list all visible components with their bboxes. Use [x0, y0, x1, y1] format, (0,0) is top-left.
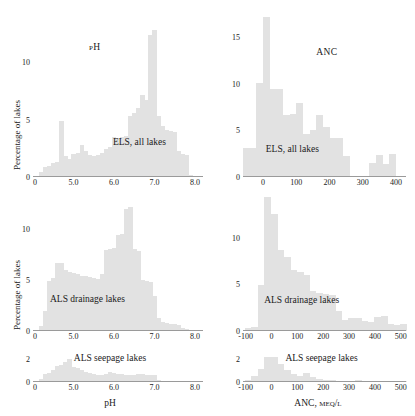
panel-dataset-label: ELS, all lakes	[266, 144, 319, 154]
x-tick-label: 6.0	[109, 178, 119, 187]
x-tick-label: 0	[33, 332, 37, 341]
y-tick-label: 0	[236, 378, 243, 387]
y-tick-label: 5	[236, 280, 243, 289]
y-tick-label: 5	[26, 115, 33, 124]
x-tick-label: 300	[343, 332, 355, 341]
panel-ph-els-all-lakes: 05.06.07.08.00510pHELS, all lakes	[33, 22, 203, 177]
y-tick-label: 0	[236, 327, 243, 336]
x-tick-label: 7.0	[149, 383, 159, 392]
x-tick-label: 5.0	[68, 383, 78, 392]
x-tick-label: 200	[317, 383, 329, 392]
x-tick-label: 200	[317, 332, 329, 341]
y-tick-label: 10	[22, 58, 33, 67]
y-tick-label: 15	[232, 33, 243, 42]
panel-dataset-label: ALS seepage lakes	[285, 353, 357, 363]
y-tick-label: 2	[236, 354, 243, 363]
x-tick-label: 0	[269, 332, 273, 341]
x-tick-label: 400	[369, 383, 381, 392]
x-tick-label: 100	[290, 178, 302, 187]
x-tick-label: 300	[343, 383, 355, 392]
y-axis-ticks: 0510	[33, 203, 34, 331]
x-axis-ticks: 05.06.07.08.0	[33, 331, 203, 345]
histogram-bar	[389, 154, 396, 177]
y-tick-label: 10	[232, 79, 243, 88]
x-axis-ticks: 05.06.07.08.0	[33, 382, 203, 396]
y-axis-ticks: 02	[33, 352, 34, 382]
x-tick-label: 500	[395, 332, 407, 341]
y-axis-label-middle-left: Percentage of lakes	[12, 260, 22, 330]
panel-ph-als-seepage-lakes: 05.06.07.08.002ALS seepage lakes	[33, 352, 203, 382]
panel-dataset-label: ELS, all lakes	[113, 137, 166, 147]
x-tick-label: 8.0	[190, 332, 200, 341]
x-axis-ticks: 0100200300400	[243, 177, 406, 191]
panel-dataset-label: ALS drainage lakes	[264, 295, 339, 305]
x-tick-label: 0	[269, 383, 273, 392]
x-tick-label: 100	[291, 383, 303, 392]
panel-dataset-label: ALS seepage lakes	[74, 353, 146, 363]
y-axis-ticks: 02	[243, 352, 244, 382]
panel-dataset-label: ALS drainage lakes	[50, 294, 125, 304]
panel-title: pH	[89, 42, 100, 52]
x-tick-label: 0	[33, 178, 37, 187]
y-tick-label: 0	[26, 378, 33, 387]
panel-anc-als-drainage-lakes: -10001002003004005000510ALS drainage lak…	[243, 196, 406, 331]
y-axis-ticks: 0510	[243, 196, 244, 331]
y-tick-label: 0	[26, 173, 33, 182]
x-tick-label: 5.0	[68, 178, 78, 187]
figure-histograms-lake-chemistry: Percentage of lakes Percentage of lakes …	[0, 0, 415, 416]
x-tick-label: 200	[323, 178, 335, 187]
x-tick-label: 6.0	[109, 332, 119, 341]
x-tick-label: 8.0	[190, 178, 200, 187]
y-axis-ticks: 051015	[243, 14, 244, 177]
x-tick-label: 5.0	[68, 332, 78, 341]
x-tick-label: 6.0	[109, 383, 119, 392]
x-tick-label: 100	[291, 332, 303, 341]
y-axis-ticks: 0510	[33, 22, 34, 177]
histogram-bar	[343, 156, 350, 177]
bar-series	[33, 22, 203, 177]
panel-title: ANC	[316, 47, 337, 57]
panel-anc-als-seepage-lakes: -100010020030040050002ALS seepage lakes	[243, 352, 406, 382]
x-axis-ticks: 05.06.07.08.0	[33, 177, 203, 191]
y-tick-label: 10	[22, 224, 33, 233]
x-axis-ticks: -1000100200300400500	[243, 382, 406, 396]
y-tick-label: 5	[26, 275, 33, 284]
x-axis-ticks: -1000100200300400500	[243, 331, 406, 345]
histogram-bar	[185, 155, 189, 177]
panel-ph-als-drainage-lakes: 05.06.07.08.00510ALS drainage lakes	[33, 203, 203, 331]
y-tick-label: 0	[26, 327, 33, 336]
bar-series	[243, 196, 406, 331]
x-tick-label: 300	[357, 178, 369, 187]
x-tick-label: 400	[390, 178, 402, 187]
panel-anc-els-all-lakes: 0100200300400051015ANCELS, all lakes	[243, 14, 406, 177]
y-tick-label: 2	[26, 354, 33, 363]
x-tick-label: 500	[395, 383, 407, 392]
y-tick-label: 10	[232, 233, 243, 242]
x-axis-label-ph: pH	[104, 398, 116, 408]
x-axis-label-anc: ANC, μeq/l	[294, 398, 341, 408]
x-tick-label: 7.0	[149, 178, 159, 187]
x-tick-label: 400	[369, 332, 381, 341]
y-tick-label: 5	[236, 126, 243, 135]
y-tick-label: 0	[236, 173, 243, 182]
x-tick-label: 0	[261, 178, 265, 187]
x-tick-label: 0	[33, 383, 37, 392]
y-axis-label-top-left: Percentage of lakes	[12, 100, 22, 170]
bar-series	[33, 203, 203, 331]
x-tick-label: 8.0	[190, 383, 200, 392]
x-tick-label: 7.0	[149, 332, 159, 341]
